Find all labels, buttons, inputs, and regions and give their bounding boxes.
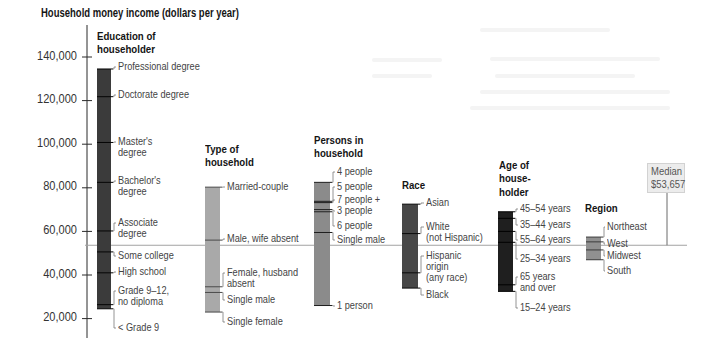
category-label-35-44-years: 35–44 years bbox=[520, 218, 571, 231]
category-label-25-34-years: 25–34 years bbox=[520, 252, 571, 265]
category-label-single-male: Single male bbox=[227, 293, 275, 306]
group-heading-age-of-householder: holder bbox=[499, 186, 529, 199]
group-heading-type-of-household: Type of bbox=[205, 143, 239, 156]
category-label-1-person: 1 person bbox=[337, 299, 373, 312]
category-label-65-years-and-over: and over bbox=[520, 281, 556, 294]
category-label-midwest: Midwest bbox=[607, 249, 641, 262]
group-heading-education-of-householder: householder bbox=[97, 43, 155, 56]
category-label-5-people: 5 people bbox=[337, 180, 372, 193]
category-label-55-64-years: 55–64 years bbox=[520, 233, 571, 246]
category-label-6-people: 6 people bbox=[337, 219, 372, 232]
category-label-black: Black bbox=[426, 288, 449, 301]
category-label-south: South bbox=[607, 264, 631, 277]
group-heading-age-of-householder: house- bbox=[499, 172, 531, 185]
y-axis-tick-label: 100,000 bbox=[13, 137, 77, 150]
y-axis-tick-label: 80,000 bbox=[13, 180, 77, 193]
group-heading-persons-in-household: household bbox=[314, 147, 363, 160]
y-axis-tick-label: 60,000 bbox=[13, 224, 77, 237]
category-label-4-people: 4 people bbox=[337, 165, 372, 178]
y-axis-tick-label: 120,000 bbox=[13, 93, 77, 106]
category-label-doctorate-degree: Doctorate degree bbox=[118, 88, 189, 101]
group-heading-region: Region bbox=[585, 202, 618, 215]
category-label-single-male: Single male bbox=[337, 233, 385, 246]
group-heading-education-of-householder: Education of bbox=[97, 30, 155, 43]
category-label-associate-degree: degree bbox=[118, 227, 147, 240]
category-label-master-s-degree: degree bbox=[118, 146, 147, 159]
group-heading-type-of-household: household bbox=[205, 156, 254, 169]
category-label-3-people: 3 people bbox=[337, 204, 372, 217]
median-value: $53,657 bbox=[651, 178, 679, 191]
category-label-hispanic-origin-any-race: (any race) bbox=[426, 271, 467, 284]
group-heading-race: Race bbox=[402, 179, 425, 192]
household-income-chart: Household money income (dollars per year… bbox=[0, 0, 721, 338]
category-label-grade-9-12-no-diploma: no diploma bbox=[118, 295, 163, 308]
y-axis-tick-label: 20,000 bbox=[13, 311, 77, 324]
category-label-married-couple: Married-couple bbox=[227, 180, 288, 193]
median-callout: Median $53,657 bbox=[647, 163, 685, 193]
category-label-some-college: Some college bbox=[118, 249, 174, 262]
chart-labels: 140,000120,000100,00080,00060,00040,0002… bbox=[0, 0, 721, 338]
median-label: Median bbox=[651, 165, 679, 178]
category-label-45-54-years: 45–54 years bbox=[520, 202, 571, 215]
category-label-bachelor-s-degree: degree bbox=[118, 185, 147, 198]
category-label-northeast: Northeast bbox=[607, 220, 647, 233]
y-axis-tick-label: 40,000 bbox=[13, 268, 77, 281]
category-label-asian: Asian bbox=[426, 196, 449, 209]
category-label-15-24-years: 15–24 years bbox=[520, 301, 571, 314]
category-label-professional-degree: Professional degree bbox=[118, 60, 200, 73]
y-axis-tick-label: 140,000 bbox=[13, 50, 77, 63]
category-label-male-wife-absent: Male, wife absent bbox=[227, 232, 299, 245]
category-label-grade-9: < Grade 9 bbox=[118, 321, 159, 334]
category-label-high-school: High school bbox=[118, 265, 166, 278]
group-heading-age-of-householder: Age of bbox=[499, 159, 529, 172]
category-label-white-not-hispanic: (not Hispanic) bbox=[426, 231, 483, 244]
category-label-single-female: Single female bbox=[227, 315, 283, 328]
group-heading-persons-in-household: Persons in bbox=[314, 134, 363, 147]
category-label-female-husband-absent: absent bbox=[227, 277, 255, 290]
